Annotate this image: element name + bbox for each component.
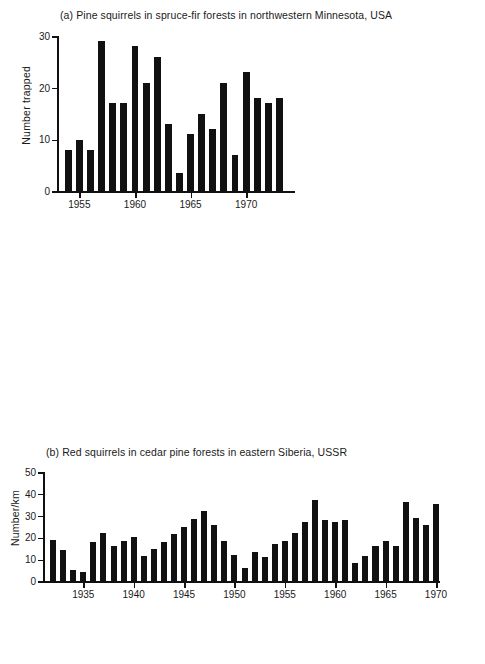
chart-a-x-tick-label: 1965: [179, 200, 201, 210]
bar: [65, 150, 72, 191]
chart-a-x-tick: [191, 193, 193, 198]
bar: [187, 134, 194, 191]
bar: [165, 124, 172, 191]
chart-a-title: (a) Pine squirrels in spruce-fir forests…: [60, 9, 392, 21]
chart-a-y-tick: [52, 140, 57, 142]
chart-a-x-tick: [246, 193, 248, 198]
chart-a-x-tick-label: 1960: [124, 200, 146, 210]
bar: [109, 103, 116, 191]
bar: [254, 98, 261, 191]
chart-a-y-tick-label: 0: [44, 187, 50, 197]
bar: [132, 46, 139, 191]
bar: [232, 155, 239, 191]
chart-a-y-tick: [52, 88, 57, 90]
chart-a-y-tick-label: 20: [39, 84, 50, 94]
bar: [154, 57, 161, 192]
chart-a-y-tick: [52, 36, 57, 38]
bar: [265, 103, 272, 191]
chart-panel-b: (b) Red squirrels in cedar pine forests …: [0, 218, 485, 410]
chart-a-y-tick: [52, 191, 57, 193]
bar: [243, 72, 250, 191]
chart-a-bars: [57, 36, 295, 191]
chart-a-y-tick-label: 30: [39, 32, 50, 42]
bar: [98, 41, 105, 191]
chart-panel-a: (a) Pine squirrels in spruce-fir forests…: [0, 0, 485, 218]
bar: [176, 173, 183, 191]
chart-a-plot-area: 01020301955196019651970: [57, 36, 295, 193]
bar: [209, 129, 216, 191]
bar: [87, 150, 94, 191]
bar: [198, 114, 205, 192]
chart-a-y-tick-label: 10: [39, 135, 50, 145]
chart-a-ylabel: Number trapped: [20, 66, 32, 145]
bar: [120, 103, 127, 191]
bar: [220, 83, 227, 192]
bar: [143, 83, 150, 192]
bar: [76, 140, 83, 192]
chart-a-x-tick-label: 1955: [68, 200, 90, 210]
chart-a-x-tick: [79, 193, 81, 198]
bar: [276, 98, 283, 191]
chart-a-x-axis: [57, 191, 295, 193]
chart-a-x-tick: [135, 193, 137, 198]
chart-panel-c: (c) Grey squirrels in oak wood, southern…: [0, 410, 485, 664]
chart-a-x-tick-label: 1970: [235, 200, 257, 210]
